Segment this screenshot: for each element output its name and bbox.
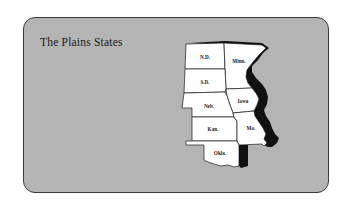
state-label-mo: Mo. — [247, 125, 256, 131]
state-label-ok: Okla. — [214, 150, 227, 156]
state-nebraska[interactable]: Neb. — [182, 92, 234, 117]
state-label-mn: Minn. — [232, 58, 246, 64]
state-label-nd: N.D. — [200, 54, 211, 60]
plains-states-map: N.D. Minn. S.D. Iowa Neb. Kan. Mo. Okla. — [0, 0, 349, 207]
state-label-ia: Iowa — [238, 98, 249, 104]
state-south-dakota[interactable]: S.D. — [184, 69, 226, 93]
state-kansas[interactable]: Kan. — [192, 117, 237, 141]
state-label-ks: Kan. — [208, 126, 220, 132]
state-oklahoma[interactable]: Okla. — [186, 141, 239, 167]
state-north-dakota[interactable]: N.D. — [185, 43, 225, 69]
state-label-sd: S.D. — [200, 79, 210, 85]
state-label-ne: Neb. — [204, 103, 215, 109]
